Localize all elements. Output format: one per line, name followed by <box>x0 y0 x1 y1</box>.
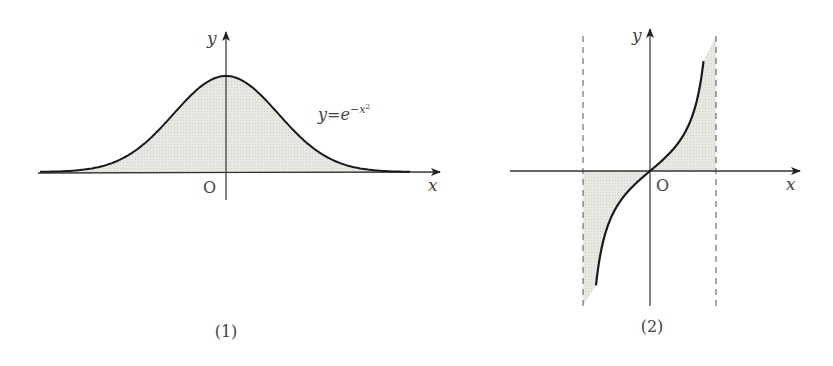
origin-label-2: O <box>656 176 669 195</box>
function-label-exponent: −x <box>350 103 366 116</box>
caption-1: (1) <box>215 322 238 341</box>
diagram-canvas: y x O y=e−x2 (1) y x O (2) <box>0 0 833 366</box>
caption-2: (2) <box>641 317 664 336</box>
figure-2-tan-like: y x O (2) <box>510 25 800 336</box>
function-label-power: 2 <box>365 102 370 111</box>
y-axis-label-1: y <box>206 28 217 48</box>
y-axis-label-2: y <box>631 25 642 45</box>
figure-1-gaussian: y x O y=e−x2 (1) <box>38 28 440 341</box>
function-label: y=e−x2 <box>317 102 370 124</box>
gaussian-shaded-area <box>40 76 410 173</box>
x-axis-label-2: x <box>786 174 796 194</box>
shaded-area-positive <box>650 36 716 171</box>
origin-label-1: O <box>203 178 216 197</box>
x-axis-label-1: x <box>428 175 438 195</box>
shaded-area-negative <box>583 171 650 306</box>
function-label-base: y=e <box>317 105 350 124</box>
